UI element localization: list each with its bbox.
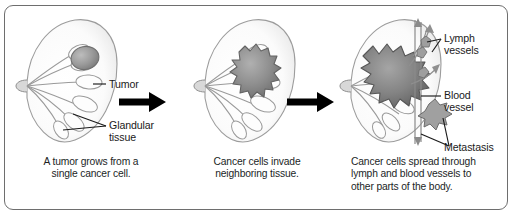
- label-glandular-tissue: Glandular tissue: [109, 119, 154, 143]
- progression-arrow-1: [119, 90, 167, 114]
- caption-panel-3: Cancer cells spread through lymph and bl…: [337, 156, 509, 193]
- caption-2-line-2: neighboring tissue.: [177, 168, 337, 180]
- progression-arrow-2: [287, 90, 335, 114]
- leader-glandular-b: [63, 126, 106, 130]
- panel-metastatic-spread: Lymph vessels Blood vessel Metastasis Ca…: [337, 6, 509, 211]
- caption-2-line-1: Cancer cells invade: [177, 156, 337, 168]
- caption-1-line-1: A tumor grows from a: [5, 156, 177, 168]
- breast-cancer-progression-diagram: Tumor Glandular tissue A tumor grows fro…: [0, 0, 515, 224]
- caption-panel-2: Cancer cells invade neighboring tissue.: [177, 156, 337, 181]
- leader-glandular-a: [73, 114, 106, 126]
- caption-3-line-2: lymph and blood vessels to: [351, 168, 509, 180]
- caption-3-line-3: other parts of the body.: [351, 181, 509, 193]
- label-metastasis: Metastasis: [444, 141, 494, 153]
- label-blood-line-1: Blood: [444, 89, 473, 101]
- nipple: [194, 80, 205, 92]
- label-metastasis-line-1: Metastasis: [444, 141, 494, 153]
- label-tumor: Tumor: [109, 78, 139, 90]
- caption-1-line-2: single cancer cell.: [5, 168, 177, 180]
- right-arrow-icon: [119, 92, 166, 112]
- diagram-frame: Tumor Glandular tissue A tumor grows fro…: [4, 5, 508, 210]
- breast-cross-section-illustration-2: [177, 6, 337, 158]
- label-blood-vessel: Blood vessel: [444, 89, 473, 113]
- label-lymph-line-2: vessels: [444, 44, 479, 56]
- label-tumor-line-1: Tumor: [109, 78, 139, 90]
- caption-panel-1: A tumor grows from a single cancer cell.: [5, 156, 177, 181]
- label-lymph-vessels: Lymph vessels: [444, 32, 479, 56]
- label-lymph-line-1: Lymph: [444, 32, 479, 44]
- label-glandular-line-2: tissue: [109, 131, 154, 143]
- label-blood-line-2: vessel: [444, 101, 473, 113]
- label-glandular-line-1: Glandular: [109, 119, 154, 131]
- right-arrow-icon: [287, 92, 334, 112]
- leader-lines-panel-3: [337, 6, 509, 158]
- caption-3-line-1: Cancer cells spread through: [351, 156, 509, 168]
